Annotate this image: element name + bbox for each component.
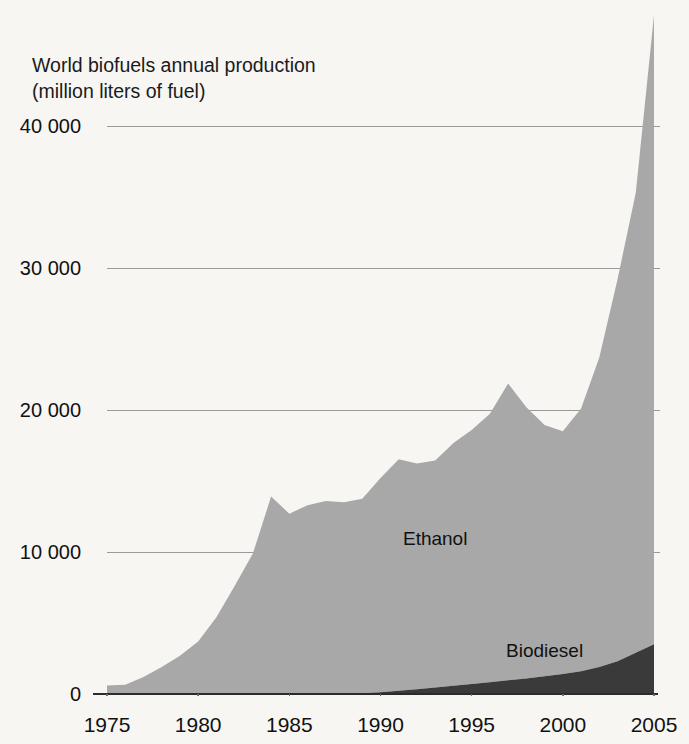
x-tick-label-2000: 2000 <box>539 713 586 736</box>
x-tick-label-1995: 1995 <box>448 713 495 736</box>
x-tick-label-1985: 1985 <box>266 713 313 736</box>
x-tick-label-1990: 1990 <box>357 713 404 736</box>
biofuels-area-chart: 010 00020 00030 00040 000197519801985199… <box>0 0 689 744</box>
y-tick-label-40000: 40 000 <box>20 115 81 137</box>
chart-title-line2: (million liters of fuel) <box>32 80 205 102</box>
y-tick-label-20000: 20 000 <box>20 399 81 421</box>
series-label-biodiesel: Biodiesel <box>506 640 583 661</box>
x-tick-label-1980: 1980 <box>175 713 222 736</box>
series-label-ethanol: Ethanol <box>403 528 467 549</box>
y-tick-label-30000: 30 000 <box>20 257 81 279</box>
chart-title-line1: World biofuels annual production <box>32 54 316 76</box>
y-tick-label-0: 0 <box>70 683 81 705</box>
x-tick-label-1975: 1975 <box>84 713 131 736</box>
x-tick-label-2005: 2005 <box>631 713 678 736</box>
y-tick-label-10000: 10 000 <box>20 541 81 563</box>
